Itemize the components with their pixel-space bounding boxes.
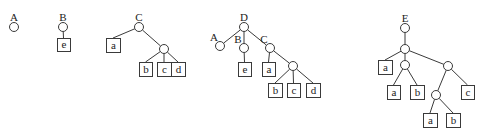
- subtree-label: C: [260, 33, 267, 45]
- tree-a: A: [10, 11, 19, 32]
- tree-node-circle: [289, 62, 298, 71]
- tree-edge: [274, 51, 290, 63]
- tree-c: Cabcd: [107, 11, 186, 77]
- leaf-label: c: [292, 84, 297, 96]
- leaf-label: c: [466, 86, 471, 98]
- subtree-label: A: [210, 31, 218, 43]
- tree-edge: [275, 69, 290, 83]
- tree-edge: [409, 51, 444, 65]
- leaf-label: d: [176, 63, 182, 75]
- tree-node-circle: [160, 45, 169, 54]
- tree-edge: [385, 51, 401, 60]
- tree-edge: [430, 99, 435, 113]
- tree-edge: [438, 70, 447, 91]
- leaf-label: b: [273, 84, 279, 96]
- tree-edge: [296, 69, 313, 83]
- tree-d: DABCeabcd: [210, 11, 320, 98]
- leaf-label: d: [311, 84, 317, 96]
- tree-e: Eaabcab: [379, 12, 475, 128]
- tree-edge: [142, 30, 160, 46]
- tree-edge: [394, 69, 403, 85]
- tree-node-circle: [401, 24, 410, 33]
- tree-edge: [407, 69, 417, 85]
- tree-node-circle: [135, 23, 144, 32]
- leaf-label: b: [415, 86, 421, 98]
- tree-edge: [451, 69, 467, 85]
- tree-root-label: E: [402, 12, 409, 24]
- leaf-label: a: [392, 86, 397, 98]
- leaf-label: a: [383, 61, 388, 73]
- tree-edge: [439, 98, 453, 113]
- tree-node-circle: [444, 62, 453, 71]
- tree-root-label: D: [240, 11, 248, 23]
- leaf-label: e: [62, 38, 67, 50]
- tree-node-circle: [10, 23, 19, 32]
- tree-forest-canvas: ABeCabcdDABCeabcdEaabcab: [0, 0, 482, 137]
- tree-root-label: A: [10, 11, 18, 23]
- tree-root-label: B: [59, 11, 66, 23]
- tree-edge: [269, 52, 270, 62]
- tree-edge: [113, 29, 135, 38]
- tree-node-circle: [401, 61, 410, 70]
- tree-diagram: ABeCabcdDABCeabcdEaabcab: [0, 0, 482, 137]
- leaf-label: a: [111, 39, 116, 51]
- tree-node-circle: [401, 45, 410, 54]
- leaf-label: e: [243, 63, 248, 75]
- tree-b: Be: [58, 11, 71, 52]
- tree-edge: [146, 52, 161, 62]
- tree-root-label: C: [135, 11, 142, 23]
- tree-node-circle: [59, 23, 68, 32]
- subtree-label: B: [234, 33, 241, 45]
- leaf-label: b: [451, 114, 457, 126]
- leaf-label: c: [162, 63, 167, 75]
- tree-edge: [167, 52, 178, 62]
- tree-node-circle: [432, 91, 441, 100]
- leaf-label: a: [267, 63, 272, 75]
- tree-node-circle: [240, 23, 249, 32]
- leaf-label: b: [143, 63, 149, 75]
- leaf-label: a: [428, 114, 433, 126]
